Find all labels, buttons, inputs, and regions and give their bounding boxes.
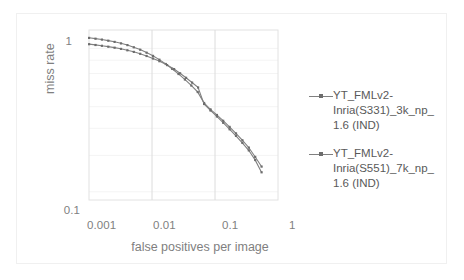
legend-item-label: YT_FMLv2- Inria(S551)_7k_np_ 1.6 (IND) [333, 146, 434, 191]
x-axis-tick-1: 1 [289, 219, 296, 231]
legend-item[interactable]: YT_FMLv2- Inria(S551)_7k_np_ 1.6 (IND) [309, 146, 449, 191]
minor-gridlines-horizontal [89, 48, 278, 191]
x-axis-tick-0.001: 0.001 [87, 219, 116, 231]
chart-panel: 1 0.1 0.001 0.01 0.1 1 false positives p… [16, 13, 447, 264]
legend-item-label: YT_FMLv2- Inria(S331)_3k_np_ 1.6 (IND) [333, 88, 434, 133]
legend-line-marker-icon [309, 90, 333, 103]
series-markers-s331-3k [88, 37, 263, 168]
plot-frame [89, 30, 278, 200]
y-axis-title: miss rate [43, 43, 57, 94]
series-line-s551-7k [88, 43, 263, 173]
x-axis-title: false positives per image [105, 240, 295, 254]
y-axis-tick-0.1: 0.1 [64, 204, 80, 216]
y-axis-tick-1: 1 [66, 35, 73, 47]
gridlines-vertical [152, 30, 215, 200]
chart-legend: YT_FMLv2- Inria(S331)_3k_np_ 1.6 (IND) Y… [309, 88, 449, 204]
series-line-s331-3k [88, 37, 263, 168]
legend-line-marker-icon [309, 148, 333, 161]
x-axis-tick-0.01: 0.01 [153, 219, 176, 231]
legend-item[interactable]: YT_FMLv2- Inria(S331)_3k_np_ 1.6 (IND) [309, 88, 449, 133]
series-markers-s551-7k [88, 43, 263, 173]
x-axis-tick-0.1: 0.1 [222, 219, 238, 231]
